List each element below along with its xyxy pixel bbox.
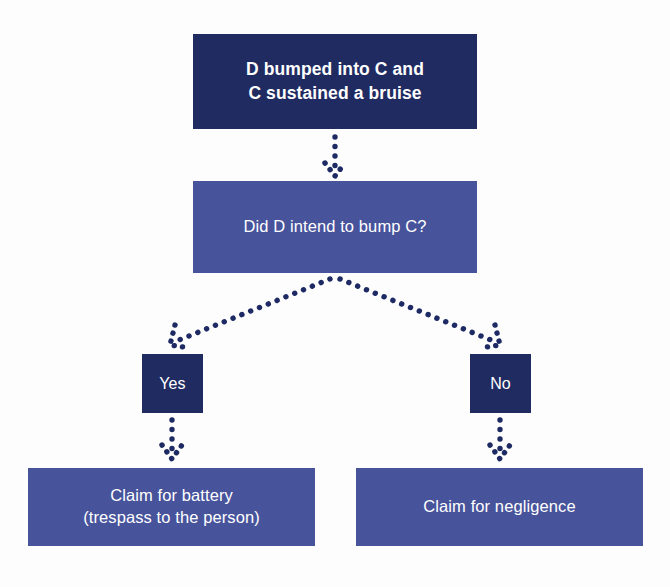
node-branch-no: No <box>470 354 531 413</box>
node-outcome-battery-line1: Claim for battery <box>110 486 233 504</box>
arrow-yes-to-battery <box>162 420 182 459</box>
node-premise-line2: C sustained a bruise <box>248 83 421 103</box>
arrow-no-to-negligence <box>490 420 510 459</box>
arrow-premise-to-question <box>325 137 345 176</box>
flowchart-diagram: D bumped into C and C sustained a bruise… <box>0 0 670 587</box>
node-outcome-negligence: Claim for negligence <box>356 468 643 546</box>
node-outcome-battery: Claim for battery (trespass to the perso… <box>28 468 315 546</box>
node-branch-yes-label: Yes <box>159 375 185 392</box>
node-premise-line1: D bumped into C and <box>246 59 424 79</box>
arrow-question-to-yes <box>170 279 330 348</box>
node-branch-yes: Yes <box>142 354 203 413</box>
node-branch-no-label: No <box>490 375 511 392</box>
node-premise: D bumped into C and C sustained a bruise <box>193 34 477 129</box>
node-outcome-battery-line2: (trespass to the person) <box>83 508 260 526</box>
node-outcome-negligence-line1: Claim for negligence <box>423 497 575 515</box>
node-question: Did D intend to bump C? <box>193 181 477 273</box>
arrow-question-to-no <box>340 279 500 348</box>
node-question-line1: Did D intend to bump C? <box>244 217 427 235</box>
